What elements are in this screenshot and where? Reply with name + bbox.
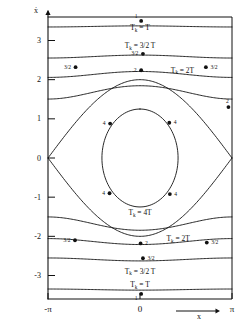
lbl-low-2T-text: Tk = 2T [166, 234, 190, 244]
plot-frame [48, 17, 232, 299]
data-point-label: 2 [134, 67, 137, 73]
data-point-marker [139, 241, 143, 245]
data-point-label: 3/2 [211, 239, 218, 245]
y-axis-label: ẋ [34, 6, 38, 15]
lbl-center-4T: Tk = 4T [128, 208, 152, 218]
y-tick-label-neg3: -3 [34, 271, 41, 280]
data-point-label: 3/2 [210, 64, 217, 70]
lbl-low-3half-text: Tk = 3/2 T [125, 267, 156, 277]
data-point-marker [108, 122, 112, 126]
x-axis-label: x [197, 312, 201, 321]
x-tick-label-negπ: -π [44, 304, 52, 314]
data-point-marker [205, 241, 209, 245]
y-axis-arrow [45, 10, 50, 15]
lbl-right-2T: Tk = 2T [171, 66, 195, 76]
data-point-label: 2 [226, 98, 229, 104]
y-tick-label-3: 3 [37, 36, 41, 45]
data-point-label: 2 [145, 240, 148, 246]
y-tick-label-neg1: -1 [34, 193, 41, 202]
data-point-marker [204, 65, 208, 69]
y-tick-label-1: 1 [37, 114, 41, 123]
data-point-label: 4 [174, 191, 177, 197]
lbl-bottom-T-text: Tk = T [130, 280, 150, 290]
y-tick-label-neg2: -2 [34, 232, 41, 241]
data-point-marker [139, 19, 143, 23]
curve-libration-inner [102, 109, 178, 207]
lbl-low-3half: Tk = 3/2 T [125, 267, 156, 277]
data-point-label: 3/2 [131, 50, 138, 56]
data-point-label: 1 [135, 13, 138, 19]
curve-rotation-bot-2 [48, 258, 232, 261]
data-point-label: 4 [174, 119, 177, 125]
data-point-label: 3/2 [147, 255, 154, 261]
curve-rotation-top-4 [48, 86, 232, 99]
lbl-low-2T: Tk = 2T [166, 234, 190, 244]
lbl-center-4T-text: Tk = 4T [128, 208, 152, 218]
x-tick-label-0: 0 [138, 304, 143, 314]
x-tick-label-π: π [230, 304, 235, 314]
data-point-marker [139, 68, 143, 72]
data-point-marker [141, 52, 145, 56]
curve-rotation-bot-4 [48, 217, 232, 230]
lbl-top-3half: Tk = 3/2 T [125, 41, 156, 51]
lbl-top-T: Tk = T [130, 23, 150, 33]
data-point-marker [139, 292, 143, 296]
curve-separatrix-upper [48, 80, 232, 158]
phase-space-figure: 3210-1-2-3ẋ-π0πxTk = TTk = 3/2 TTk = 2T… [0, 0, 241, 325]
data-point-label: 3/2 [63, 237, 70, 243]
data-point-marker [74, 65, 78, 69]
lbl-bottom-T: Tk = T [130, 280, 150, 290]
x-axis-arrow [216, 309, 221, 314]
lbl-right-2T-text: Tk = 2T [171, 66, 195, 76]
y-tick-label-0: 0 [37, 154, 41, 163]
data-point-label: 3/2 [64, 64, 71, 70]
data-point-label: 4 [103, 120, 106, 126]
curve-rotation-top-2 [48, 55, 232, 58]
data-point-marker [227, 105, 231, 109]
y-tick-label-2: 2 [37, 75, 41, 84]
data-point-label: 1 [135, 295, 138, 301]
lbl-top-T-text: Tk = T [130, 23, 150, 33]
curve-separatrix-lower [48, 158, 232, 236]
lbl-top-3half-text: Tk = 3/2 T [125, 41, 156, 51]
data-point-marker [168, 192, 172, 196]
data-point-marker [73, 238, 77, 242]
phase-space-plot: 3210-1-2-3ẋ-π0πxTk = TTk = 3/2 TTk = 2T… [0, 0, 241, 325]
curve-rotation-top-3 [48, 71, 232, 77]
data-point-marker [167, 121, 171, 125]
data-point-label: 4 [102, 190, 105, 196]
data-point-marker [141, 256, 145, 260]
data-point-marker [108, 191, 112, 195]
